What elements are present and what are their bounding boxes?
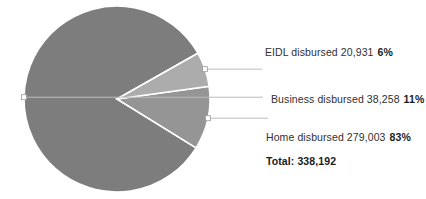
total-label: Total: 338,192 [266, 155, 336, 168]
callout-percent-home: 83% [390, 131, 411, 143]
callout-text-business: Business disbursed 38,258 [271, 93, 400, 105]
callout-label-eidl: EIDL disbursed 20,9316% [265, 46, 393, 59]
chart-page: EIDL disbursed 20,9316% Business disburs… [0, 0, 426, 199]
callout-text-eidl: EIDL disbursed 20,931 [265, 46, 374, 58]
callout-text-home: Home disbursed 279,003 [266, 131, 386, 143]
callout-label-business: Business disbursed 38,25811% [271, 93, 424, 106]
callout-label-home: Home disbursed 279,00383% [266, 131, 411, 144]
leader-marker-eidl [203, 67, 208, 72]
leader-marker-home [22, 95, 27, 100]
callout-percent-business: 11% [404, 93, 425, 105]
callout-percent-eidl: 6% [378, 46, 393, 58]
leader-marker-business [206, 116, 211, 121]
